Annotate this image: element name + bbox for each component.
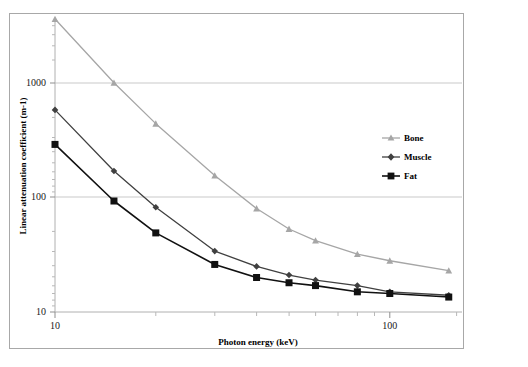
square-marker-icon [52,141,59,148]
plot-area-background [55,20,462,312]
attenuation-chart: 1000 100 10 10 100 Photon energy (keV) L… [0,0,528,367]
square-marker-icon [253,274,260,281]
y-tick-label-1000: 1000 [26,77,46,88]
legend-label-muscle: Muscle [404,152,432,162]
square-marker-icon [445,294,452,301]
x-tick-label-10: 10 [50,320,60,331]
x-axis-major-ticks [55,312,390,318]
triangle-marker-icon [52,16,59,22]
x-axis-title: Photon energy (keV) [218,337,298,347]
y-tick-label-100: 100 [31,191,46,202]
square-marker-icon [110,198,117,205]
legend-label-bone: Bone [404,133,424,143]
legend-label-fat: Fat [404,171,417,181]
square-marker-icon [152,229,159,236]
square-marker-icon [312,282,319,289]
figure-root: 1000 100 10 10 100 Photon energy (keV) L… [0,0,528,367]
x-axis-minor-ticks [156,312,457,316]
x-tick-label-100: 100 [382,320,397,331]
square-marker-icon [286,279,293,286]
square-marker-icon [388,173,395,180]
square-marker-icon [211,261,218,268]
y-tick-label-10: 10 [36,306,46,317]
square-marker-icon [386,290,393,297]
y-axis-title: Linear attenuation coefficient (m-1) [18,97,28,234]
square-marker-icon [354,288,361,295]
